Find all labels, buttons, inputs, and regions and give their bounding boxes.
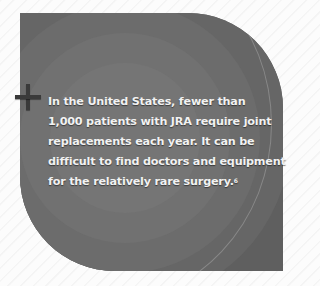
callout-text: In the United States, fewer than 1,000 p… <box>48 92 288 192</box>
callout-line: replacements each year. It can be <box>48 132 288 152</box>
callout-line: 1,000 patients with JRA require joint <box>48 112 288 132</box>
plus-icon <box>15 84 41 110</box>
callout-line: difficult to find doctors and equipment <box>48 152 288 172</box>
callout-line-text: for the relatively rare surgery. <box>48 175 234 188</box>
footnote-ref: 6 <box>234 177 238 184</box>
callout-line: In the United States, fewer than <box>48 92 288 112</box>
callout-line: for the relatively rare surgery.6 <box>48 172 288 192</box>
